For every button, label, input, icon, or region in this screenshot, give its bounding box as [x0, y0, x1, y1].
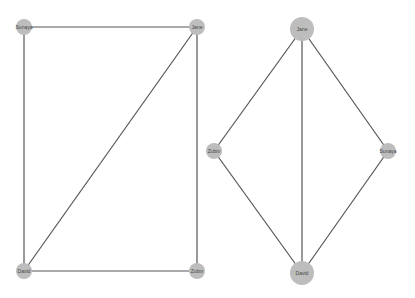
node-sunaya[interactable]: Sunaya	[380, 143, 397, 159]
node-label: Jane	[297, 26, 308, 32]
node-david[interactable]: David	[290, 261, 314, 285]
edge-sunaya-david	[302, 151, 388, 273]
edge-zubin-david	[214, 151, 302, 273]
node-zubin[interactable]: Zubin	[206, 143, 222, 159]
node-label: David	[296, 270, 309, 276]
node-jane[interactable]: Jane	[290, 17, 314, 41]
node-label: Sunaya	[380, 148, 397, 154]
node-label: Zubin	[208, 148, 221, 154]
node-sunaya[interactable]: Sunaya	[16, 19, 33, 35]
node-label: Zubin	[191, 268, 204, 274]
right-graph: JaneZubinSunayaDavid	[206, 17, 397, 285]
node-label: Jane	[192, 24, 203, 30]
edge-jane-sunaya	[302, 29, 388, 151]
edge-jane-zubin	[214, 29, 302, 151]
node-label: David	[18, 268, 31, 274]
node-label: Sunaya	[16, 24, 33, 30]
left-graph: SunayaJaneDavidZubin	[16, 19, 205, 279]
node-zubin[interactable]: Zubin	[189, 263, 205, 279]
node-david[interactable]: David	[16, 263, 32, 279]
edge-jane-david	[24, 27, 197, 271]
network-diagram: SunayaJaneDavidZubin JaneZubinSunayaDavi…	[0, 0, 415, 298]
node-jane[interactable]: Jane	[189, 19, 205, 35]
